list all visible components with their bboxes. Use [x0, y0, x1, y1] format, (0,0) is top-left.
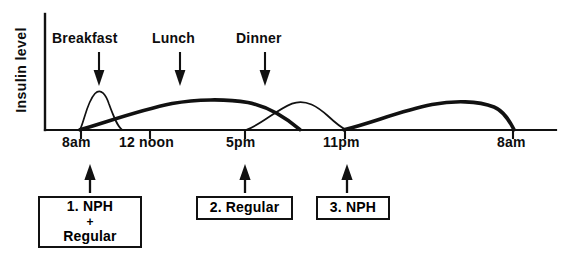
x-axis-ticks	[81, 130, 513, 139]
down-arrow-lunch	[175, 52, 186, 86]
curve-nph-bedtime	[344, 102, 514, 130]
chart-plot-area	[0, 0, 567, 266]
up-arrow-injection-1	[84, 164, 95, 193]
meal-arrows	[94, 52, 271, 86]
insulin-curves	[80, 91, 514, 129]
injection-arrows	[84, 164, 352, 193]
axis-lines	[45, 14, 556, 130]
down-arrow-breakfast	[94, 52, 105, 86]
down-arrow-dinner	[260, 52, 271, 86]
up-arrow-injection-2	[239, 164, 250, 193]
insulin-action-chart: Insulin level Breakfast Lunch Dinner 8am…	[0, 0, 567, 266]
up-arrow-injection-3	[341, 164, 352, 193]
